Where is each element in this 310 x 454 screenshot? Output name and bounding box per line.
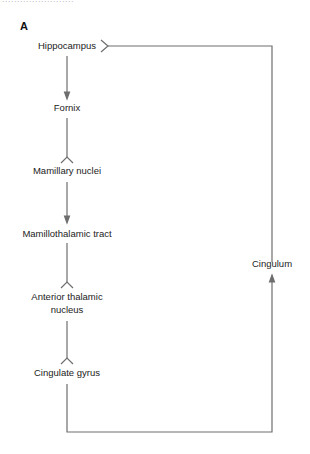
node-cingulum: Cingulum	[252, 258, 292, 270]
hippocampus-fork-icon	[101, 40, 108, 52]
mamillary-fork-icon	[61, 157, 73, 163]
node-anterior-thalamic-line2: nucleus	[51, 304, 84, 316]
circuit-diagram	[0, 0, 310, 454]
node-fornix: Fornix	[54, 102, 80, 114]
return-path-line	[108, 46, 272, 262]
arrowhead-tract-icon	[65, 216, 70, 223]
anterior-fork-icon	[61, 282, 73, 288]
arrowhead-fornix-icon	[65, 92, 70, 99]
node-anterior-thalamic-line1: Anterior thalamic	[31, 291, 102, 303]
node-mamillary-nuclei: Mamillary nuclei	[33, 165, 101, 177]
cingulate-fork-icon	[61, 358, 73, 364]
node-mamillothalamic-tract: Mamillothalamic tract	[22, 228, 111, 240]
node-hippocampus: Hippocampus	[38, 40, 96, 52]
node-cingulate-gyrus: Cingulate gyrus	[34, 367, 100, 379]
arrowhead-cingulum-icon	[270, 275, 275, 282]
